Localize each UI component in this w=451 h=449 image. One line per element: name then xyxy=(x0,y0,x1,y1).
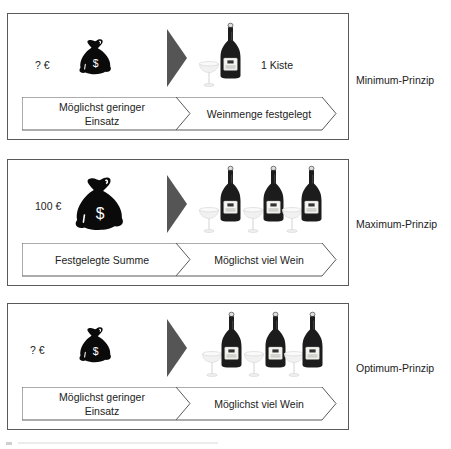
wine-bottles xyxy=(198,163,338,235)
principle-label-maximum: Maximum-Prinzip xyxy=(356,218,437,230)
principle-label-optimum: Optimum-Prinzip xyxy=(356,362,434,374)
step-output: Möglichst viel Wein xyxy=(188,387,330,421)
principle-label-minimum: Minimum-Prinzip xyxy=(356,74,434,86)
step-output: Möglichst viel Wein xyxy=(188,243,330,277)
step-output: Weinmenge festgelegt xyxy=(188,97,330,131)
wine-bottle-icon xyxy=(300,309,325,371)
step-input: Möglichst geringer Einsatz xyxy=(22,387,182,421)
quantity-label: 1 Kiste xyxy=(261,59,293,71)
wine-bottle-icon xyxy=(218,163,243,225)
wine-bottle-icon xyxy=(299,163,324,225)
step-input: Festgelegte Summe xyxy=(22,243,182,277)
triangle-right-icon xyxy=(167,319,187,377)
step-input-line1: Möglichst geringer xyxy=(59,100,145,114)
triangle-right-icon xyxy=(167,175,187,233)
process-chevron-bar: Festgelegte Summe Möglichst viel Wein xyxy=(22,243,342,277)
champagne-glass-icon xyxy=(243,349,265,379)
amount-label: ? € xyxy=(30,344,45,356)
process-chevron-bar: Möglichst geringer Einsatz Möglichst vie… xyxy=(22,387,342,421)
money-bag-dollar-icon xyxy=(77,38,113,76)
step-input-line1: Festgelegte Summe xyxy=(55,253,149,267)
wine-bottles xyxy=(198,19,258,89)
wine-bottles xyxy=(201,309,341,381)
wine-bottle-icon xyxy=(218,20,243,82)
money-bag-dollar-icon xyxy=(73,175,125,233)
panel-minimum: ? € 1 Kiste Möglichst geringer Einsatz W… xyxy=(7,13,349,140)
wine-bottle-icon xyxy=(219,309,244,371)
process-chevron-bar: Möglichst geringer Einsatz Weinmenge fes… xyxy=(22,97,342,131)
step-input: Möglichst geringer Einsatz xyxy=(22,97,182,131)
step-input-line2: Einsatz xyxy=(85,404,119,418)
money-bag-dollar-icon xyxy=(77,326,113,364)
step-input-line1: Möglichst geringer xyxy=(59,390,145,404)
panel-optimum: ? € Möglichst geringer Einsatz Möglichst… xyxy=(7,303,349,430)
amount-label: ? € xyxy=(35,59,50,71)
amount-label: 100 € xyxy=(35,200,61,212)
champagne-glass-icon xyxy=(198,59,220,89)
triangle-right-icon xyxy=(167,29,187,87)
panel-maximum: 100 € Festgelegte Summe Möglichst viel W… xyxy=(7,159,349,286)
champagne-glass-icon xyxy=(198,205,220,235)
figure-caption-cutoff xyxy=(6,440,226,446)
step-input-line2: Einsatz xyxy=(85,114,119,128)
